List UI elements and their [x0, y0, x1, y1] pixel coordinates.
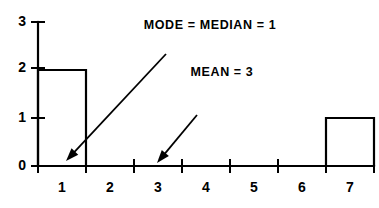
y-tick-labels: 0 1 2 3	[18, 13, 26, 173]
annotation-mode-median-label: MODE = MEDIAN = 1	[144, 18, 276, 32]
x-tick-label-1: 1	[58, 179, 66, 195]
y-tick-label-3: 3	[18, 13, 26, 29]
x-tick-label-6: 6	[298, 179, 306, 195]
annotation-arrow-mean	[157, 115, 197, 163]
annotation-mean-label: MEAN = 3	[191, 65, 254, 79]
x-tick-label-2: 2	[106, 179, 114, 195]
annotation-texts-group: MODE = MEDIAN = 1 MEAN = 3	[144, 18, 276, 79]
x-tick-label-4: 4	[202, 179, 210, 195]
y-tick-label-0: 0	[18, 157, 26, 173]
histogram-figure: 0 1 2 3 1 2 3 4 5 6 7	[0, 0, 379, 208]
x-tick-labels: 1 2 3 4 5 6 7	[58, 179, 354, 195]
bars-group	[38, 70, 374, 166]
x-tick-label-3: 3	[154, 179, 162, 195]
annotation-arrow-shaft	[163, 115, 197, 156]
y-tick-label-2: 2	[18, 59, 26, 75]
histogram-bar	[38, 70, 86, 166]
axes-group	[38, 22, 374, 166]
y-tick-label-1: 1	[18, 109, 26, 125]
chart-canvas: 0 1 2 3 1 2 3 4 5 6 7	[0, 0, 379, 208]
histogram-bar	[326, 118, 374, 166]
x-tick-label-7: 7	[346, 179, 354, 195]
x-tick-label-5: 5	[250, 179, 258, 195]
